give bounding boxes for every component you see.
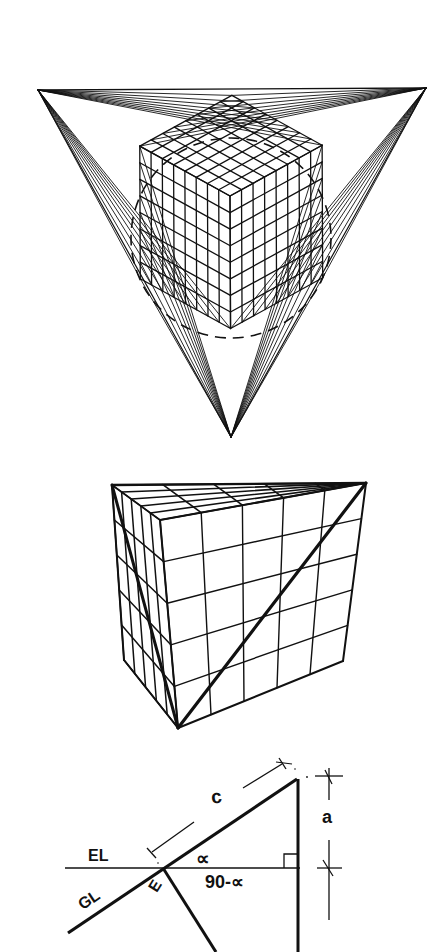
front-face-horizontal <box>167 554 357 603</box>
label-c: c <box>210 786 223 806</box>
dimension-c-lower <box>152 822 194 852</box>
illustration-canvas <box>0 0 429 952</box>
right-face-grid-line <box>311 152 312 285</box>
label-alpha: ∝ <box>196 849 210 868</box>
convergence-line-right <box>323 88 426 278</box>
left-face-horizontal <box>122 625 175 686</box>
label-el: EL <box>88 848 108 864</box>
convergence-line-right <box>265 88 426 310</box>
convergence-line-left <box>38 90 174 297</box>
dot-marker <box>157 862 159 864</box>
dimension-c-upper <box>243 764 282 788</box>
convergence-line-left <box>38 90 140 279</box>
dimension-c-tick-upper-2 <box>276 762 292 764</box>
convergence-line-right <box>311 88 426 284</box>
convergence-line-left <box>38 90 231 329</box>
subdivided-cube-figure <box>112 483 366 728</box>
front-face-horizontal <box>174 625 347 686</box>
convergence-line-left <box>38 90 152 285</box>
convergence-line-left <box>38 90 197 310</box>
right-angle-marker <box>284 854 298 868</box>
convergence-line-right <box>288 88 426 297</box>
left-face-grid-line <box>151 152 152 285</box>
convergence-line-right <box>151 88 426 140</box>
label-complement-angle: 90-∝ <box>205 873 244 891</box>
dot-marker <box>294 768 296 770</box>
horizon-line-top <box>38 88 426 90</box>
dot-marker <box>306 776 308 778</box>
front-face-vertical <box>242 505 244 701</box>
convergence-line-right <box>242 88 426 322</box>
front-face-vertical <box>310 490 325 674</box>
convergence-line-left <box>38 90 185 304</box>
label-a: a <box>322 808 332 826</box>
three-point-perspective-figure <box>38 88 426 437</box>
